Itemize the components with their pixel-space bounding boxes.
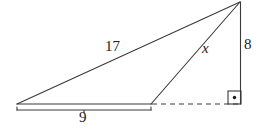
- vertical-leg-length-label: 8: [244, 37, 252, 52]
- geometry-diagram-canvas: [0, 0, 265, 129]
- right-angle-marker-dot-icon: [233, 96, 236, 99]
- cevian-line: [151, 2, 240, 104]
- hypotenuse-length-label: 17: [105, 39, 120, 54]
- geometry-figure: 17 x 8 9: [0, 0, 265, 129]
- base-length-label: 9: [79, 110, 87, 125]
- cevian-length-label: x: [202, 41, 209, 56]
